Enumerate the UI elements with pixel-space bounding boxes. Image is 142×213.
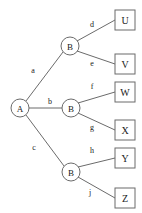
tree-diagram: A B B B U V W X Y Z a b c d e f <box>0 0 142 213</box>
edge-d-line <box>77 20 115 41</box>
node-b1-label: B <box>67 42 73 52</box>
leaf-v-label: V <box>121 59 129 70</box>
leaf-z-label: Z <box>122 193 128 204</box>
edge-label-g: g <box>90 123 94 132</box>
edge-label-j: j <box>88 188 91 197</box>
edge-label-f: f <box>91 82 94 91</box>
edge-f-line <box>78 92 115 103</box>
node-b3-label: B <box>68 168 74 178</box>
edge-label-a: a <box>31 66 35 75</box>
edge-label-e: e <box>90 59 94 68</box>
edge-e-line <box>77 51 115 64</box>
edge-label-c: c <box>32 143 36 152</box>
edge-c-line <box>26 115 64 166</box>
node-a-label: A <box>17 104 24 114</box>
node-b2-label: B <box>68 104 74 114</box>
leaf-x-label: X <box>121 125 129 136</box>
edge-j-line <box>78 177 115 198</box>
edge-label-h: h <box>90 146 94 155</box>
edge-label-d: d <box>90 20 94 29</box>
edge-a-line <box>26 52 63 101</box>
tree-diagram-canvas: A B B B U V W X Y Z a b c d e f <box>0 0 142 213</box>
leaf-y-label: Y <box>121 153 128 164</box>
leaf-w-label: W <box>120 87 130 98</box>
edge-label-b: b <box>48 97 52 106</box>
edge-g-line <box>78 113 115 130</box>
leaf-u-label: U <box>121 15 129 26</box>
edge-h-line <box>78 158 115 167</box>
